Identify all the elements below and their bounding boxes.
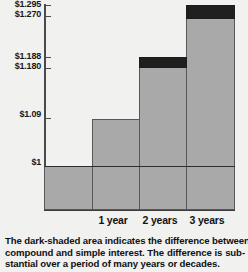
caption-word: and <box>56 247 73 259</box>
plot-area <box>44 4 235 211</box>
caption-line-1: The dark-shaded area indicates the diffe… <box>5 235 245 247</box>
caption-word: is <box>215 247 223 259</box>
y-axis-label-1270: $1.270 <box>15 10 41 19</box>
caption-word: compound <box>5 247 53 259</box>
y-axis-label-109: $1.09 <box>19 110 41 119</box>
year-3-compound-difference <box>186 5 235 19</box>
year-3-bar <box>186 5 235 210</box>
interest-comparison-figure: $1.295 $1.270 $1.188 $1.180 $1.09 $1 1 y… <box>0 0 248 272</box>
caption-word: difference <box>167 247 212 259</box>
y-axis-labels: $1.295 $1.270 $1.188 $1.180 $1.09 $1 <box>0 0 41 215</box>
y-axis-label-1295: $1.295 <box>15 0 41 9</box>
x-axis-labels: 1 year 2 years 3 years <box>44 213 235 229</box>
baseline-column <box>44 166 93 210</box>
caption-line-3: stantial over a period of many years or … <box>5 258 245 270</box>
caption-word: The <box>147 247 164 259</box>
caption-word: interest. <box>108 247 144 259</box>
y-axis-label-1: $1 <box>31 158 41 167</box>
y-axis-tick-109 <box>46 118 51 119</box>
x-axis-label-3-years: 3 years <box>172 213 242 227</box>
one-dollar-reference-line <box>44 166 235 167</box>
y-axis-tick-1188 <box>46 57 51 58</box>
year-2-compound-difference <box>139 57 187 68</box>
y-axis-label-1180: $1.180 <box>15 62 41 71</box>
y-axis-tick-1270 <box>46 16 51 17</box>
year-2-bar <box>139 57 187 210</box>
figure-caption: The dark-shaded area indicates the diffe… <box>5 235 245 270</box>
y-axis-tick-1180 <box>46 68 51 69</box>
caption-line-2: compound and simple interest. The differ… <box>5 247 245 259</box>
year-1-bar <box>92 119 140 210</box>
y-axis-label-1188: $1.188 <box>15 52 41 61</box>
y-axis-tick-1295 <box>46 5 51 6</box>
caption-word: sub- <box>225 247 245 259</box>
caption-word: simple <box>76 247 106 259</box>
